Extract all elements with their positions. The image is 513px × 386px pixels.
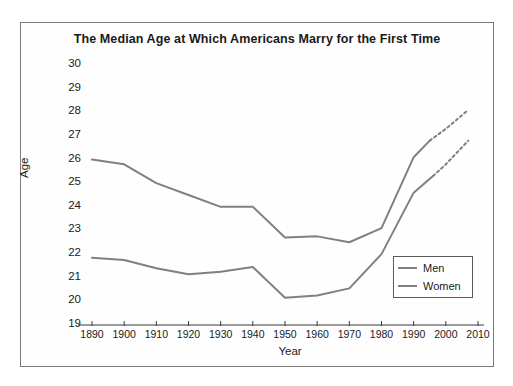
legend-item-women[interactable]: Women	[398, 277, 461, 295]
plot-area	[0, 0, 513, 386]
series-line-projected-women	[433, 141, 468, 176]
series-line-men	[92, 141, 430, 243]
axis-lines	[78, 321, 484, 326]
legend-line-icon-men	[398, 267, 417, 269]
chart-page: The Median Age at Which Americans Marry …	[0, 0, 513, 386]
legend-line-icon-women	[398, 285, 417, 287]
series-line-projected-men	[430, 110, 469, 141]
series-line-women	[92, 176, 433, 298]
legend-label-women: Women	[423, 280, 461, 292]
legend-label-men: Men	[423, 262, 444, 274]
legend: Men Women	[393, 256, 473, 298]
legend-item-men[interactable]: Men	[398, 259, 444, 277]
